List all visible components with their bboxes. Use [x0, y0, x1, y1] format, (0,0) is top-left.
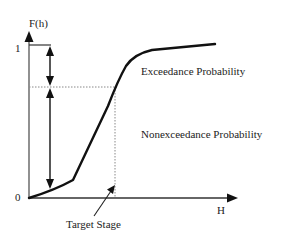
exceedance-probability-label: Exceedance Probability	[141, 65, 246, 77]
x-axis-label: H	[217, 204, 225, 216]
exceedance-arrow-down-icon	[46, 76, 54, 86]
x-axis-arrow-icon	[227, 194, 238, 203]
y-tick-zero: 0	[15, 191, 21, 203]
target-stage-pointer	[94, 191, 111, 216]
exceedance-arrow-up-icon	[46, 46, 54, 56]
nonexceedance-arrow-up-icon	[46, 88, 54, 98]
y-axis-arrow-icon	[25, 31, 34, 42]
target-stage-label: Target Stage	[66, 218, 121, 230]
y-axis-label: F(h)	[29, 17, 48, 30]
nonexceedance-arrow-down-icon	[46, 179, 54, 189]
target-stage-arrow-icon	[107, 185, 115, 194]
nonexceedance-probability-label: Nonexceedance Probability	[141, 128, 263, 140]
cdf-diagram: F(h) 1 0 Exceedance Probability Nonexcee…	[0, 0, 284, 243]
y-tick-one: 1	[15, 42, 21, 54]
